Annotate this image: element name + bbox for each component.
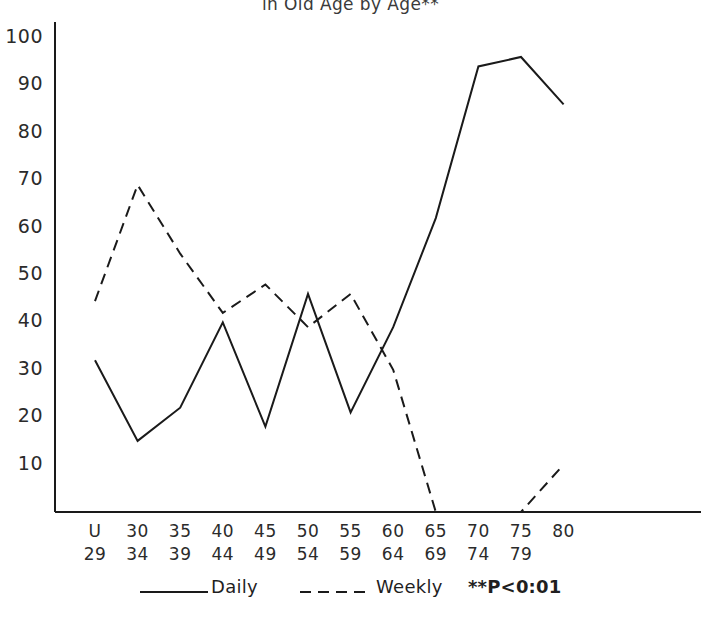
x-tick-group-11: 80 bbox=[536, 520, 592, 543]
y-tick-label-80: 80 bbox=[0, 120, 43, 142]
data-series-layer bbox=[95, 57, 564, 512]
axis-lines bbox=[55, 22, 701, 512]
series-line-weekly bbox=[95, 185, 564, 512]
legend-swatch-solid bbox=[140, 581, 208, 593]
y-tick-label-30: 30 bbox=[0, 357, 43, 379]
y-tick-label-100: 100 bbox=[0, 25, 43, 47]
y-tick-label-90: 90 bbox=[0, 72, 43, 94]
x-tick-bottom-11: 80 bbox=[536, 520, 592, 543]
legend-item-weekly: Weekly bbox=[300, 576, 443, 597]
x-tick-bottom-10: 79 bbox=[493, 543, 549, 566]
y-tick-label-20: 20 bbox=[0, 404, 43, 426]
legend-label-daily: Daily bbox=[211, 576, 258, 597]
legend-label-weekly: Weekly bbox=[376, 576, 443, 597]
y-tick-label-10: 10 bbox=[0, 452, 43, 474]
legend-swatch-dashed bbox=[300, 581, 368, 593]
legend-item-daily: Daily bbox=[140, 576, 258, 597]
chart-legend: Daily Weekly **P<0:01 bbox=[0, 572, 701, 604]
significance-note: **P<0:01 bbox=[468, 576, 561, 597]
y-tick-label-50: 50 bbox=[0, 262, 43, 284]
chart-container: in Old Age by Age** 10203040506070809010… bbox=[0, 0, 701, 617]
y-tick-label-40: 40 bbox=[0, 309, 43, 331]
y-tick-label-60: 60 bbox=[0, 215, 43, 237]
y-tick-label-70: 70 bbox=[0, 167, 43, 189]
series-line-daily bbox=[95, 57, 564, 441]
